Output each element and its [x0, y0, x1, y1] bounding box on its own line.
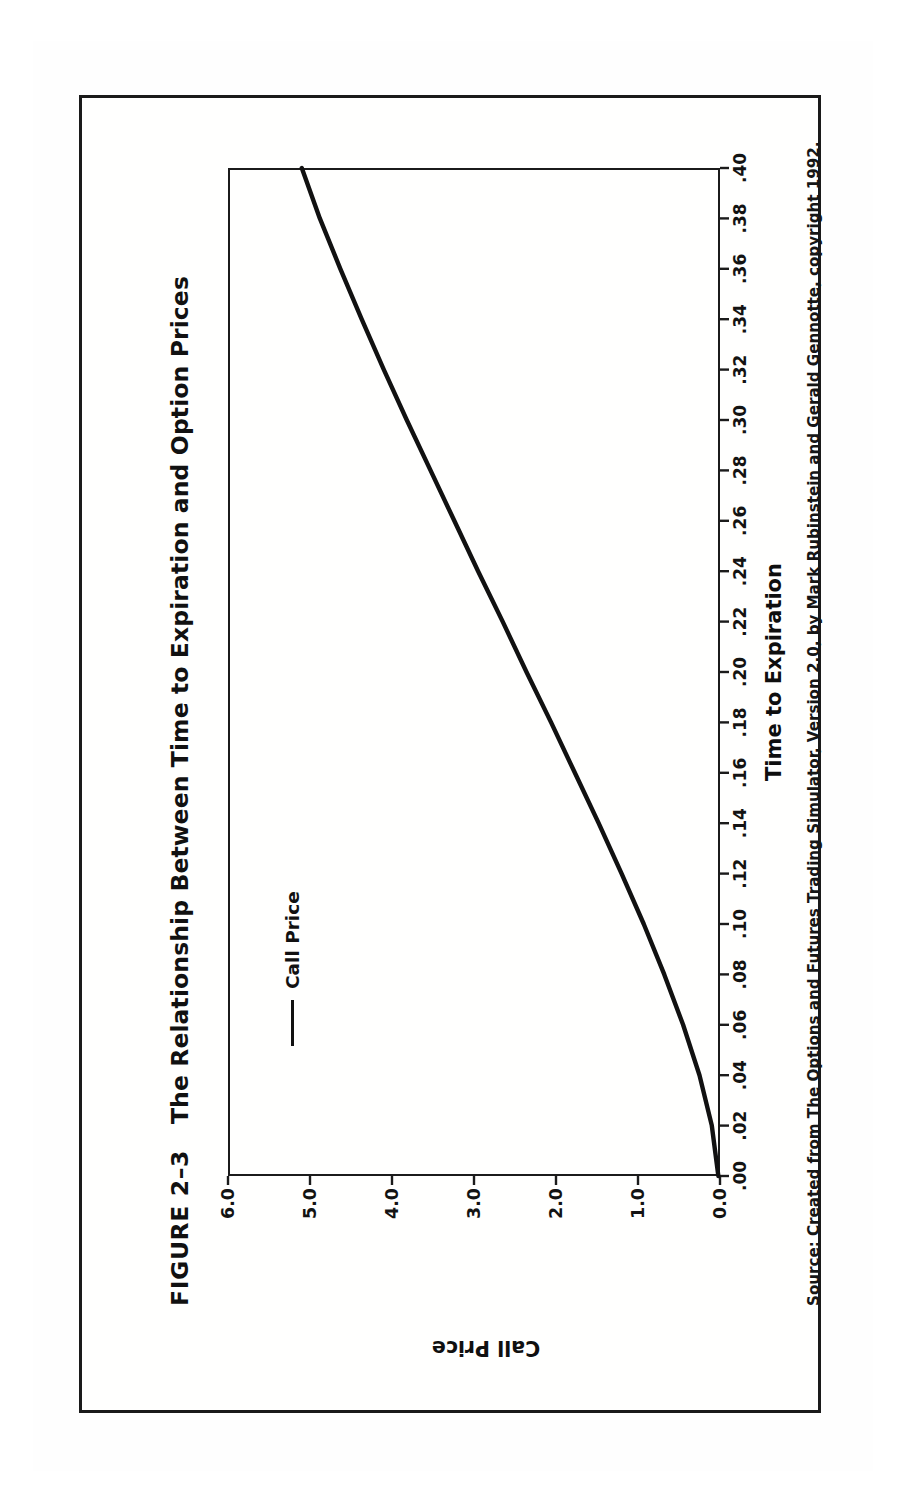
- figure-number: FIGURE 2–3: [166, 1150, 194, 1306]
- series-line-call-price: [302, 168, 719, 1176]
- x-axis-tick-label: .08: [730, 959, 750, 989]
- y-axis-title: Call Price: [356, 1336, 616, 1360]
- x-axis-tick-label: .12: [730, 859, 750, 889]
- x-axis-tick-label: .10: [730, 909, 750, 939]
- legend-entry-label: Call Price: [282, 891, 303, 989]
- x-axis-tick-label: .02: [730, 1111, 750, 1141]
- figure-caption: FIGURE 2–3The Relationship Between Time …: [166, 276, 194, 1306]
- y-axis-tick-label: 1.0: [628, 1188, 648, 1262]
- source-note: Source: Created from The Options and Fut…: [805, 142, 823, 1306]
- page-title: The Relationship Between Time to Expirat…: [166, 276, 194, 1124]
- figure-border: FIGURE 2–3The Relationship Between Time …: [79, 95, 821, 1413]
- y-axis-tick-label: 3.0: [464, 1188, 484, 1262]
- y-axis-tick-label: 6.0: [218, 1188, 238, 1262]
- x-axis-tick-label: .00: [730, 1161, 750, 1191]
- x-axis-tick-label: .30: [730, 405, 750, 435]
- x-axis-tick-label: .06: [730, 1010, 750, 1040]
- y-axis-tick-label: 0.0: [710, 1188, 730, 1262]
- legend-line-swatch-icon: [291, 1000, 294, 1046]
- rotated-figure-stage: FIGURE 2–3The Relationship Between Time …: [33, 41, 873, 1471]
- chart-legend: Call Price: [282, 891, 303, 1046]
- x-axis-tick-label: .18: [730, 707, 750, 737]
- y-axis-tick-label: 4.0: [382, 1188, 402, 1262]
- x-axis-tick-label: .16: [730, 758, 750, 788]
- x-axis-tick-label: .36: [730, 254, 750, 284]
- x-axis-tick-label: .34: [730, 304, 750, 334]
- x-axis-tick-label: .14: [730, 808, 750, 838]
- x-axis-tick-label: .28: [730, 455, 750, 485]
- x-axis-tick-label: .24: [730, 556, 750, 586]
- chart-plot-area: 0.01.02.03.04.05.06.0 Call Price .00.02.…: [228, 168, 720, 1264]
- x-axis-tick-label: .20: [730, 657, 750, 687]
- y-axis-tickmarks: [228, 1176, 720, 1185]
- y-axis-tick-label: 2.0: [546, 1188, 566, 1262]
- x-axis-tick-label: .04: [730, 1060, 750, 1090]
- x-axis-tickmarks: [720, 168, 729, 1176]
- y-axis-tick-label: 5.0: [300, 1188, 320, 1262]
- x-axis-tick-label: .22: [730, 607, 750, 637]
- x-axis-tick-label: .26: [730, 506, 750, 536]
- x-axis-tick-label: .40: [730, 153, 750, 183]
- x-axis-tick-label: .32: [730, 355, 750, 385]
- x-axis-tick-label: .38: [730, 203, 750, 233]
- x-axis-title: Time to Expiration: [762, 168, 786, 1176]
